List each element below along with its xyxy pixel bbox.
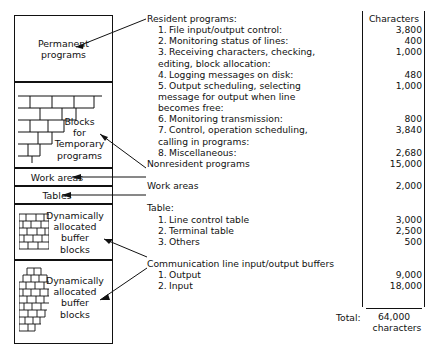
listing-item-text: Monitoring status of lines: [169, 35, 288, 46]
hatch-buffer-blocks-1 [19, 212, 49, 252]
characters-value [366, 202, 422, 213]
characters-value [366, 136, 422, 147]
listing-item-text: Others [169, 236, 200, 247]
memory-box-buffer-blocks-2-label: Dynamically allocated buffer blocks [40, 275, 110, 320]
listing-row: message for output when line [147, 91, 352, 102]
listing-row: calling in programs: [147, 136, 352, 147]
listing-item-text: Line control table [169, 214, 249, 225]
characters-value [366, 258, 422, 269]
listing-item-text: message for output when line [158, 91, 295, 102]
listing-row: 8.Miscellaneous: [147, 147, 352, 158]
characters-value: 3,840 [366, 124, 422, 135]
listing-item-text: Output [169, 269, 201, 280]
listing-row: 3.Others [147, 236, 352, 247]
characters-value [366, 58, 422, 69]
listing-spacer [147, 169, 352, 180]
listing-row: Table: [147, 202, 352, 213]
listing-row: 1.File input/output control: [147, 24, 352, 35]
listing-spacer [147, 191, 352, 202]
listing-item-text: File input/output control: [169, 24, 282, 35]
listing-item-text: Terminal table [169, 225, 234, 236]
listing-row: 1.Output [147, 269, 352, 280]
listing-row: 5.Output scheduling, selecting [147, 80, 352, 91]
characters-value: 1,000 [366, 80, 422, 91]
listing-item-text: Monitoring transmission: [169, 113, 283, 124]
listing-row: Work areas [147, 180, 352, 191]
characters-value: 400 [366, 35, 422, 46]
total-units: characters [366, 322, 428, 333]
listing-item-number: 8. [158, 147, 169, 158]
hatch-buffer-blocks-2 [19, 266, 49, 338]
characters-value: 800 [366, 113, 422, 124]
characters-header: Characters [366, 13, 422, 24]
listing-item-text: calling in programs: [158, 136, 249, 147]
characters-value [366, 169, 422, 180]
listing-row: Communication line input/output buffers [147, 258, 352, 269]
listing-item-text: becomes free: [158, 102, 224, 113]
memory-box-tables-label: Tables [14, 190, 100, 201]
listing-row: 6.Monitoring transmission: [147, 113, 352, 124]
listing-row: becomes free: [147, 102, 352, 113]
listing-item-text: Miscellaneous: [169, 147, 237, 158]
numbers-rule-left [362, 11, 363, 307]
listing-item-text: Control, operation scheduling, [169, 124, 308, 135]
listing-item-text: Input [169, 280, 193, 291]
memory-box-work-areas-label: Work areas [14, 172, 100, 183]
characters-value: 15,000 [366, 158, 422, 169]
listing-item-number: 7. [158, 124, 169, 135]
characters-value: 18,000 [366, 280, 422, 291]
listing-row: 3.Receiving characters, checking, [147, 46, 352, 57]
characters-value [366, 247, 422, 258]
listing-spacer [147, 247, 352, 258]
listing-column: Resident programs:1.File input/output co… [147, 13, 352, 292]
listing-item-text: Communication line input/output buffers [147, 258, 334, 269]
characters-value: 500 [366, 236, 422, 247]
characters-value [366, 91, 422, 102]
listing-item-number: 1. [158, 24, 169, 35]
characters-value [366, 102, 422, 113]
characters-value: 3,800 [366, 24, 422, 35]
listing-row: 4.Logging messages on disk: [147, 69, 352, 80]
listing-item-text: Output scheduling, selecting [169, 80, 301, 91]
listing-row: Resident programs: [147, 13, 352, 24]
characters-value: 3,000 [366, 214, 422, 225]
listing-row: 2.Monitoring status of lines: [147, 35, 352, 46]
characters-value: 1,000 [366, 46, 422, 57]
numbers-rule-right [424, 11, 425, 307]
memory-box-permanent-programs-label: Permanent programs [14, 38, 113, 60]
listing-item-number: 3. [158, 46, 169, 57]
listing-item-number: 2. [158, 225, 169, 236]
listing-item-text: Logging messages on disk: [169, 69, 293, 80]
characters-column: Characters3,8004001,0004801,0008003,8402… [366, 13, 422, 292]
memory-box-buffer-blocks-1-label: Dynamically allocated buffer blocks [40, 210, 110, 255]
diagram-figure: Permanent programs Blocks for Temporary … [0, 0, 434, 359]
listing-item-number: 3. [158, 236, 169, 247]
characters-value: 2,680 [366, 147, 422, 158]
characters-value: 9,000 [366, 269, 422, 280]
listing-item-text: Work areas [147, 180, 198, 191]
characters-value: 480 [366, 69, 422, 80]
total-divider [366, 308, 422, 309]
listing-item-number: 5. [158, 80, 169, 91]
listing-item-text: Nonresident programs [147, 158, 250, 169]
listing-row: Nonresident programs [147, 158, 352, 169]
listing-item-text: Receiving characters, checking, [169, 46, 315, 57]
hatch-temporary-blocks [18, 90, 102, 163]
listing-item-number: 2. [158, 280, 169, 291]
listing-row: 7.Control, operation scheduling, [147, 124, 352, 135]
listing-row: 2.Input [147, 280, 352, 291]
listing-row: editing, block allocation: [147, 58, 352, 69]
characters-value [366, 191, 422, 202]
listing-item-number: 1. [158, 214, 169, 225]
listing-item-number: 6. [158, 113, 169, 124]
total-label: Total: [336, 312, 361, 323]
listing-item-text: Resident programs: [147, 13, 237, 24]
listing-row: 2.Terminal table [147, 225, 352, 236]
listing-item-number: 2. [158, 35, 169, 46]
listing-item-text: editing, block allocation: [158, 58, 271, 69]
listing-row: 1.Line control table [147, 214, 352, 225]
listing-item-text: Table: [147, 202, 174, 213]
listing-item-number: 4. [158, 69, 169, 80]
characters-value: 2,000 [366, 180, 422, 191]
total-value: 64,000 [366, 311, 422, 322]
